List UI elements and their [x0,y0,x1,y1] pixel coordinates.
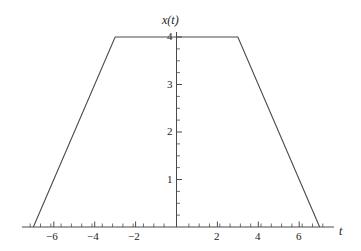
x-tick-label-minus2: −2 [128,231,140,242]
x-tick-label-2: 2 [214,231,220,242]
chart-figure: x(t) t −6 −4 −2 2 4 6 1 2 3 4 [0,0,361,251]
x-tick-label-6: 6 [296,231,302,242]
y-tick-label-3: 3 [167,79,173,90]
trapezoidal-pulse-plot [0,0,361,251]
y-axis-label: x(t) [162,14,179,26]
x-tick-label-minus6: −6 [46,231,58,242]
x-axis-label: t [339,225,342,237]
y-tick-label-4: 4 [167,31,173,42]
y-tick-label-1: 1 [167,174,173,185]
x-tick-label-4: 4 [255,231,261,242]
y-tick-label-2: 2 [167,126,173,137]
x-tick-label-minus4: −4 [87,231,99,242]
